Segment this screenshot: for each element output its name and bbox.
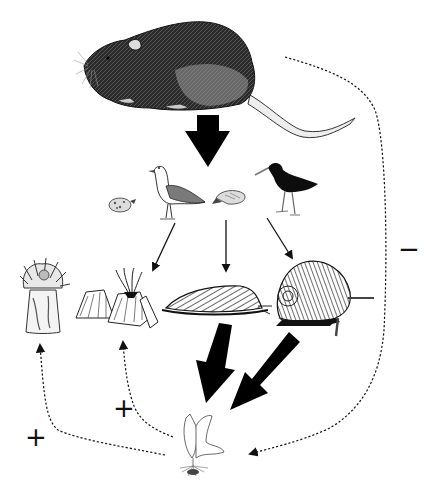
oystercatcher-illustration — [255, 163, 318, 215]
algae-illustration — [180, 414, 224, 476]
indirect-effect-algae-to-anemone — [40, 345, 165, 455]
strong-effect-arrow-chiton-to-algae — [196, 323, 235, 403]
barnacles-illustration — [76, 268, 158, 328]
arrow-birds-to-snail — [267, 218, 292, 258]
rat-eye — [106, 56, 109, 59]
chiton-illustration — [162, 286, 272, 315]
anemone-illustration — [20, 258, 70, 334]
rat-tail — [248, 95, 355, 138]
trophic-cascade-diagram — [0, 0, 429, 492]
minus-sign: − — [398, 236, 420, 262]
gull-illustration — [148, 166, 205, 219]
plus-sign-middle: + — [113, 395, 135, 421]
chick-illustration — [212, 191, 245, 205]
snail-illustration — [276, 261, 374, 336]
birds-group — [109, 163, 318, 219]
arrow-birds-to-barnacles — [153, 223, 175, 270]
strong-effect-arrow-rat-to-birds — [185, 115, 230, 167]
strong-effect-arrow-snail-to-algae — [230, 332, 300, 410]
plus-sign-left: + — [25, 424, 47, 450]
gull-chick-illustration — [109, 198, 136, 212]
